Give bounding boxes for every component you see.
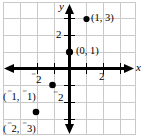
x-tick-neg2-number: 2 [36, 73, 42, 85]
x-tick-label-neg2: ⁻2 [31, 71, 42, 85]
point-label-y-value: 1) [27, 91, 36, 102]
x-axis-label: x [136, 62, 141, 73]
y-tick-label-neg2: ⁻2 [53, 89, 64, 103]
point-label-neg2-neg3: (⁻2, ⁻3) [3, 120, 36, 135]
point-label-1-3: (1, 3) [91, 13, 114, 24]
y-tick-label-2: 2 [56, 29, 62, 40]
point-label-neg1-neg1: (⁻1, ⁻1) [3, 88, 36, 103]
point-label-y-value: 3) [27, 123, 36, 134]
point-label-x-value: 1, [12, 91, 23, 102]
point-label-0-1: (0, 1) [76, 46, 99, 57]
coordinate-plane-svg [0, 0, 147, 138]
data-point-1-3 [83, 16, 89, 22]
y-tick-neg2-number: 2 [58, 91, 64, 103]
point-label-x-value: 2, [12, 123, 23, 134]
y-axis-label: y [59, 1, 64, 12]
data-point-neg2-neg3 [33, 109, 40, 116]
x-tick-label-2: 2 [99, 71, 105, 82]
coordinate-plane-figure: y x 2 ⁻2 2 ⁻2 (1, 3) (0, 1) (⁻1, ⁻1) (⁻2… [0, 0, 147, 138]
data-point-0-1 [66, 48, 73, 55]
